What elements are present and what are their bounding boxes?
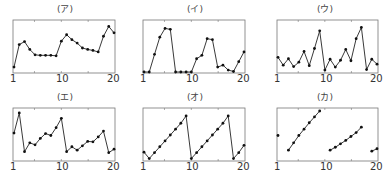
- data-point: [113, 31, 116, 34]
- x-tick-1: 1: [274, 161, 280, 172]
- data-point: [297, 61, 300, 64]
- data-point: [211, 134, 214, 137]
- data-point: [65, 33, 68, 36]
- data-point: [318, 110, 321, 113]
- data-point: [55, 54, 58, 57]
- data-point: [44, 54, 47, 57]
- data-point: [350, 135, 353, 138]
- data-point: [81, 144, 84, 147]
- data-point: [39, 137, 42, 140]
- data-point: [153, 53, 156, 56]
- data-point: [344, 48, 347, 51]
- data-point: [308, 64, 311, 67]
- data-point: [164, 139, 167, 142]
- data-point: [185, 115, 188, 118]
- data-point: [211, 38, 214, 41]
- data-point: [297, 134, 300, 137]
- data-point: [227, 69, 230, 72]
- panel-b: (イ) 1 10 20: [130, 0, 260, 88]
- x-tick-20: 20: [237, 73, 250, 84]
- data-point: [113, 148, 116, 151]
- data-point: [158, 145, 161, 148]
- data-point: [227, 115, 230, 118]
- data-point: [169, 134, 172, 137]
- data-point: [308, 121, 311, 124]
- data-point: [97, 51, 100, 54]
- x-tick-1: 1: [10, 73, 16, 84]
- x-tick-10: 10: [320, 161, 333, 172]
- data-point: [200, 145, 203, 148]
- series-line: [14, 26, 114, 67]
- data-point: [70, 145, 73, 148]
- data-point: [107, 151, 110, 154]
- data-point: [164, 27, 167, 30]
- data-point: [282, 64, 285, 67]
- data-point: [195, 57, 198, 60]
- data-point: [277, 134, 280, 137]
- data-point: [303, 50, 306, 53]
- data-point: [55, 126, 58, 129]
- data-point: [206, 37, 209, 40]
- data-point: [222, 64, 225, 67]
- panel-f: (カ) 1 10 20: [260, 88, 390, 176]
- data-point: [313, 47, 316, 50]
- data-point: [216, 128, 219, 131]
- data-point: [206, 139, 209, 142]
- data-point: [360, 126, 363, 129]
- data-point: [350, 59, 353, 62]
- data-point: [195, 151, 198, 154]
- data-point: [49, 134, 52, 137]
- x-tick-20: 20: [107, 73, 120, 84]
- x-tick-10: 10: [56, 161, 69, 172]
- data-point: [216, 66, 219, 69]
- data-point: [23, 40, 26, 43]
- series-line: [14, 113, 114, 153]
- x-tick-10: 10: [320, 73, 333, 84]
- data-point: [360, 26, 363, 29]
- data-point: [158, 36, 161, 39]
- data-point: [102, 35, 105, 38]
- plot-frame: [143, 108, 245, 161]
- data-point: [92, 140, 95, 143]
- data-point: [355, 37, 358, 40]
- data-point: [23, 150, 26, 153]
- data-point: [277, 56, 280, 59]
- data-point: [65, 150, 68, 153]
- data-point: [34, 53, 37, 56]
- data-point: [292, 141, 295, 144]
- data-point: [148, 157, 151, 160]
- data-point: [232, 70, 235, 73]
- x-tick-1: 1: [10, 161, 16, 172]
- data-point: [143, 151, 146, 154]
- data-point: [339, 142, 342, 145]
- data-point: [169, 28, 172, 31]
- data-point: [237, 151, 240, 154]
- data-point: [60, 117, 63, 120]
- data-point: [18, 43, 21, 46]
- x-tick-20: 20: [370, 73, 383, 84]
- data-point: [49, 54, 52, 57]
- data-point: [28, 141, 31, 144]
- data-point: [18, 112, 21, 115]
- data-point: [355, 131, 358, 134]
- data-point: [232, 157, 235, 160]
- data-point: [86, 48, 89, 51]
- data-point: [13, 132, 16, 135]
- data-point: [60, 40, 63, 43]
- data-point: [370, 150, 373, 153]
- data-point: [365, 68, 368, 71]
- panel-d: (エ) 1 10 20: [0, 88, 130, 176]
- data-point: [243, 144, 246, 147]
- data-point: [76, 42, 79, 45]
- data-point: [70, 38, 73, 41]
- series-line: [144, 28, 244, 72]
- data-point: [222, 122, 225, 125]
- data-point: [334, 146, 337, 149]
- data-point: [34, 143, 37, 146]
- data-point: [28, 48, 31, 51]
- data-point: [179, 71, 182, 74]
- data-point: [287, 149, 290, 152]
- data-point: [107, 25, 110, 28]
- data-point: [148, 71, 151, 74]
- series-line: [278, 27, 377, 70]
